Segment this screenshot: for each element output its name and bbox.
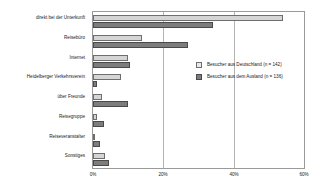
- legend-item-ausland: Besucher aus dem Ausland (n = 136): [196, 71, 308, 83]
- y-axis-label: Internet: [0, 55, 85, 61]
- x-axis-tick-labels: 0% 20% 40% 60%: [92, 171, 305, 183]
- bar-ausland-2: [93, 62, 130, 68]
- x-axis-tick-label: 20%: [158, 171, 167, 178]
- bar-deutschland-0: [93, 15, 283, 21]
- y-axis-label: Reisebüro: [0, 35, 85, 41]
- y-axis-category-labels: direkt bei der Unterkunft Reisebüro Inte…: [0, 11, 89, 169]
- plot-area: [92, 11, 305, 169]
- y-axis-label: Reiseveranstalter: [0, 134, 85, 140]
- bar-chart: direkt bei der Unterkunft Reisebüro Inte…: [0, 0, 317, 191]
- bar-group: [93, 150, 304, 170]
- chart-legend: Besucher aus Deutschland (n = 142) Besuc…: [196, 59, 308, 83]
- y-axis-label: Heidelberger Verkehrsverein: [0, 74, 85, 80]
- legend-label: Besucher aus dem Ausland (n = 136): [207, 74, 283, 80]
- bar-ausland-7: [93, 160, 109, 166]
- bar-deutschland-6: [93, 134, 95, 140]
- bar-ausland-4: [93, 101, 128, 107]
- bar-group: [93, 131, 304, 151]
- bar-ausland-3: [93, 81, 97, 87]
- bar-deutschland-3: [93, 74, 121, 80]
- x-axis-tick-label: 60%: [299, 171, 308, 178]
- bar-ausland-6: [93, 141, 100, 147]
- bar-deutschland-5: [93, 114, 97, 120]
- bar-group: [93, 111, 304, 131]
- bar-group: [93, 32, 304, 52]
- bar-group: [93, 91, 304, 111]
- x-axis-tick-label: 40%: [229, 171, 238, 178]
- legend-label: Besucher aus Deutschland (n = 142): [207, 62, 282, 68]
- bar-ausland-0: [93, 22, 213, 28]
- legend-swatch-icon: [196, 62, 202, 68]
- bar-deutschland-2: [93, 55, 128, 61]
- bar-deutschland-1: [93, 35, 142, 41]
- legend-swatch-icon: [196, 74, 202, 80]
- y-axis-label: Sonstiges: [0, 153, 85, 159]
- bar-ausland-1: [93, 42, 188, 48]
- y-axis-label: direkt bei der Unterkunft: [0, 15, 85, 21]
- y-axis-label: über Freunde: [0, 94, 85, 100]
- y-axis-label: Reisegruppe: [0, 114, 85, 120]
- bar-ausland-5: [93, 121, 104, 127]
- x-axis-tick-label: 0%: [90, 171, 97, 178]
- legend-item-deutschland: Besucher aus Deutschland (n = 142): [196, 59, 308, 71]
- bar-group: [93, 12, 304, 32]
- bar-deutschland-4: [93, 94, 102, 100]
- bar-deutschland-7: [93, 153, 105, 159]
